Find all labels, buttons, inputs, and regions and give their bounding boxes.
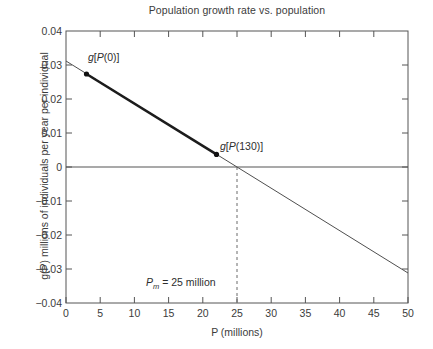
x-axis-ticks-top: [100, 31, 374, 37]
data-point-marker-0: [84, 71, 89, 76]
data-point-label-1: g[P(130)]: [220, 140, 263, 152]
chart-figure: Population growth rate vs. population g(…: [0, 0, 433, 349]
pm-annotation: Pm = 25 million: [146, 276, 216, 291]
pm-rest: = 25 million: [159, 276, 215, 288]
data-point-marker-1: [214, 152, 219, 157]
pm-symbol: P: [146, 276, 153, 288]
highlighted-segment: [87, 74, 217, 154]
plot-canvas: [0, 0, 433, 349]
data-point-label-0: g[P(0)]: [88, 51, 120, 63]
